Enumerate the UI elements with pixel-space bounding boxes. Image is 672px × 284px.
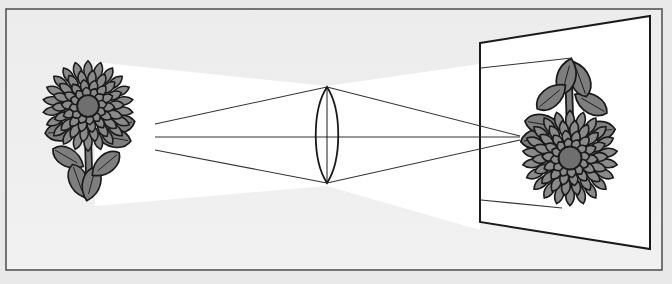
optics-diagram <box>0 0 672 284</box>
diagram-stage <box>0 0 672 284</box>
flower-center <box>559 147 582 170</box>
flower-center <box>77 95 99 117</box>
